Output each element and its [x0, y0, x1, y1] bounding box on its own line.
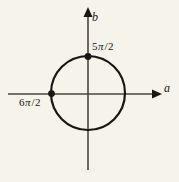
point-label-top-denominator: 2 [108, 40, 114, 52]
horizontal-axis-label: a [164, 82, 170, 94]
point-marker-top [85, 53, 92, 60]
arrow-right-icon [152, 90, 162, 99]
vertical-axis-label: b [92, 11, 98, 23]
point-label-left-numerator: 6 [19, 96, 25, 108]
diagram-canvas [0, 0, 179, 182]
point-label-left-denominator: 2 [35, 96, 41, 108]
complex-plane-figure: a b 5π/2 6π/2 [0, 0, 179, 182]
point-label-top-numerator: 5 [92, 40, 98, 52]
vertical-axis [84, 7, 93, 170]
point-label-left: 6π/2 [19, 97, 41, 108]
point-marker-left [48, 90, 55, 97]
point-label-top: 5π/2 [92, 41, 114, 52]
